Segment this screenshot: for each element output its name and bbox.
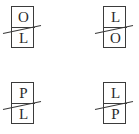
token-box-top-left: O L — [11, 6, 34, 48]
token-box-bottom-left: P L — [11, 82, 34, 124]
letter-token-figure: O L L O P L L P — [0, 0, 139, 134]
token-box-top-right: L O — [103, 6, 126, 48]
token-cell-bottom-left: P L — [0, 67, 69, 134]
token-cell-top-right: L O — [70, 0, 139, 67]
token-bottom-letter: L — [12, 104, 35, 124]
token-cell-top-left: O L — [0, 0, 69, 67]
token-bottom-letter: P — [104, 104, 127, 124]
token-top-letter: L — [104, 83, 127, 103]
token-top-letter: P — [12, 83, 35, 103]
token-bottom-letter: L — [12, 28, 35, 48]
token-top-letter: O — [12, 7, 35, 27]
token-bottom-letter: O — [104, 28, 127, 48]
token-top-letter: L — [104, 7, 127, 27]
token-box-bottom-right: L P — [103, 82, 126, 124]
token-cell-bottom-right: L P — [70, 67, 139, 134]
